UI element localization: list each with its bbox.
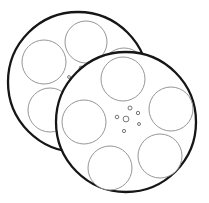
artboard: [0, 0, 209, 203]
hub-dot-3: [136, 111, 139, 114]
hole-bottom: [88, 146, 132, 190]
hub-dot-1: [68, 76, 71, 79]
front-reel[interactable]: [56, 52, 196, 192]
hub-dot-1: [115, 115, 119, 119]
hub-dot-5: [122, 129, 125, 132]
hole-top: [101, 57, 145, 101]
hub-dot-0: [128, 106, 132, 110]
hole-left: [62, 100, 106, 144]
hole-left-upper: [22, 40, 66, 84]
hub-dot-2: [123, 116, 129, 122]
hole-lower-right: [138, 134, 182, 178]
film-reels-illustration: [0, 0, 209, 203]
hub-dot-4: [138, 123, 141, 126]
hole-upper-right: [149, 87, 193, 131]
